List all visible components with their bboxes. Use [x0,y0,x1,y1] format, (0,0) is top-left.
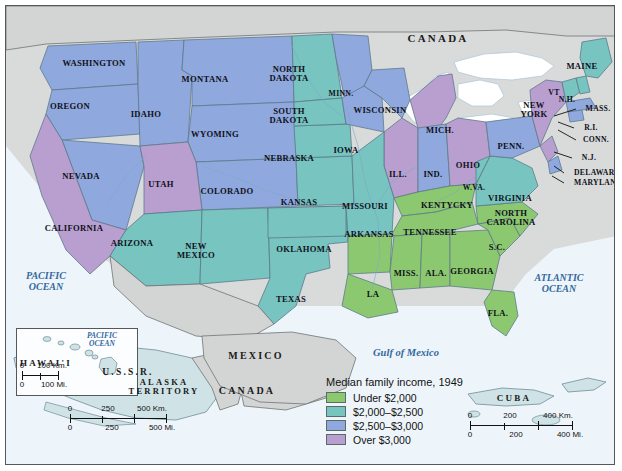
legend: Median family income, 1949 Under $2,000$… [326,376,463,447]
alaska-scale-graphic [66,414,191,423]
alaska-scale-top-labels: 0 250 500 Km. [66,404,191,414]
legend-swatch-1 [326,406,346,417]
legend-item-3: Over $3,000 [326,433,463,447]
hawaii-scale-graphic [20,371,82,380]
legend-label-3: Over $3,000 [353,434,411,446]
main-scale-bottom-labels: 0 200 400 Mi. [466,430,601,441]
legend-label-0: Under $2,000 [353,392,417,404]
alaska-scale-bar: 0 250 500 Km. 0 250 500 Mi. [66,404,191,434]
legend-title: Median family income, 1949 [326,376,463,388]
map-figure: WASHINGTONOREGONIDAHOMONTANANEVADAWYOMIN… [0,0,622,471]
legend-swatch-0 [326,392,346,403]
legend-item-1: $2,000–$2,500 [326,405,463,419]
hawaii-scale-bottom-labels: 0 100 Mi. [20,380,82,391]
hawaii-scale-bar: 0 100 Km. 0 100 Mi. [20,361,82,391]
leader-lines [6,6,615,465]
main-scale-graphic [466,421,601,430]
legend-label-2: $2,500–$3,000 [353,420,423,432]
main-scale-top-labels: 0 200 400 Km. [466,411,601,421]
alaska-scale-bottom-labels: 0 250 500 Mi. [66,423,191,434]
legend-rows: Under $2,000$2,000–$2,500$2,500–$3,000Ov… [326,391,463,447]
legend-label-1: $2,000–$2,500 [353,406,423,418]
legend-swatch-3 [326,434,346,445]
main-scale-bar: 0 200 400 Km. 0 200 400 Mi. [466,411,601,441]
legend-swatch-2 [326,420,346,431]
legend-item-0: Under $2,000 [326,391,463,405]
legend-item-2: $2,500–$3,000 [326,419,463,433]
map-frame: WASHINGTONOREGONIDAHOMONTANANEVADAWYOMIN… [5,5,615,465]
hawaii-scale-top-labels: 0 100 Km. [20,361,82,371]
